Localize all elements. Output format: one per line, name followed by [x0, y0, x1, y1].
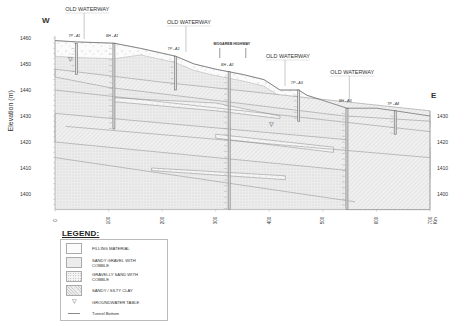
x-tick-label: 300 — [213, 216, 218, 224]
y-tick-label-right: 1430 — [437, 113, 448, 119]
sandy-gravel-swatch-icon — [66, 257, 82, 268]
east-direction-label: E — [431, 91, 437, 100]
filling-material-swatch-icon — [66, 243, 82, 254]
x-tick-label: 700 — [428, 216, 433, 224]
legend-item-sandy-gravel: SANDY GRAVEL WITH COBBLE — [61, 257, 167, 268]
borehole-column — [75, 43, 77, 74]
legend-item-tunnel-bottom: Tunnel Bottom — [61, 308, 167, 319]
x-tick-label: 0 — [53, 219, 58, 222]
legend-label: SANDY GRAVEL WITH COBBLE — [92, 258, 142, 268]
old-waterway-label: OLD WATERWAY — [65, 6, 109, 12]
y-tick-label-left: 1420 — [20, 139, 31, 145]
borehole-label: TP - A4 — [387, 102, 399, 106]
groundwater-table-icon: ▽ — [68, 56, 73, 62]
clay-swatch-icon — [66, 285, 82, 296]
legend-label: GRAVELLY SAND WITH COBBLE — [92, 272, 142, 282]
groundwater-table-icon: ▽ — [66, 297, 82, 308]
y-tick-label-right: 1420 — [437, 139, 448, 145]
west-direction-label: W — [42, 16, 50, 25]
legend: FILLING MATERIAL SANDY GRAVEL WITH COBBL… — [60, 239, 168, 321]
legend-item-groundwater-table: ▽ GROUNDWATER TABLE — [61, 297, 167, 308]
legend-item-gravelly-sand: GRAVELLY SAND WITH COBBLE — [61, 271, 167, 282]
legend-title: LEGEND: — [62, 229, 99, 238]
legend-label: SANDY / SILTY CLAY — [92, 288, 133, 293]
y-tick-label-left: 1440 — [20, 87, 31, 93]
highway-label: MOGAREB HIGHWAY — [213, 42, 250, 46]
x-tick-label: 500 — [320, 216, 325, 224]
y-tick-label-left: 1450 — [20, 61, 31, 67]
y-tick-label-left: 1400 — [20, 191, 31, 197]
y-tick-label-left: 1410 — [20, 165, 31, 171]
borehole-column — [346, 108, 348, 209]
borehole-label: BH - A3 — [339, 99, 351, 103]
x-tick-label: 600 — [374, 216, 379, 224]
groundwater-table-icon: ▽ — [269, 121, 274, 127]
x-tick-label: 400 — [267, 216, 272, 224]
borehole-label: TP - A1 — [68, 34, 80, 38]
borehole-column — [394, 111, 396, 134]
y-axis-label: Elevation (m) — [7, 90, 15, 131]
borehole-column — [113, 43, 115, 129]
legend-label: FILLING MATERIAL — [92, 246, 130, 251]
borehole-column — [228, 72, 230, 210]
x-tick-label: 200 — [160, 216, 165, 224]
x-axis-unit: Km — [433, 217, 438, 224]
old-waterway-label: OLD WATERWAY — [330, 69, 374, 75]
y-tick-label-left: 1430 — [20, 113, 31, 119]
borehole-label: TP - A3 — [291, 81, 303, 85]
soil-layers: ▽▽ — [55, 41, 430, 210]
legend-item-sandy-silty-clay: SANDY / SILTY CLAY — [61, 285, 167, 296]
old-waterway-label: OLD WATERWAY — [167, 19, 211, 25]
borehole-label: BH - A2 — [221, 63, 233, 67]
y-tick-label-right: 1410 — [437, 165, 448, 171]
legend-label: Tunnel Bottom — [92, 311, 119, 316]
legend-label: GROUNDWATER TABLE — [92, 300, 139, 305]
borehole-label: TP - A2 — [168, 47, 180, 51]
gravelly-sand-swatch-icon — [66, 271, 82, 282]
old-waterway-label: OLD WATERWAY — [266, 53, 310, 59]
borehole-column — [175, 56, 177, 90]
y-tick-label-right: 1400 — [437, 191, 448, 197]
borehole-column — [298, 90, 300, 121]
borehole-label: BH - A1 — [106, 34, 118, 38]
tunnel-bottom-line-icon — [66, 308, 82, 319]
x-tick-label: 100 — [106, 216, 111, 224]
y-tick-label-left: 1460 — [20, 35, 31, 41]
legend-item-filling-material: FILLING MATERIAL — [61, 243, 167, 254]
